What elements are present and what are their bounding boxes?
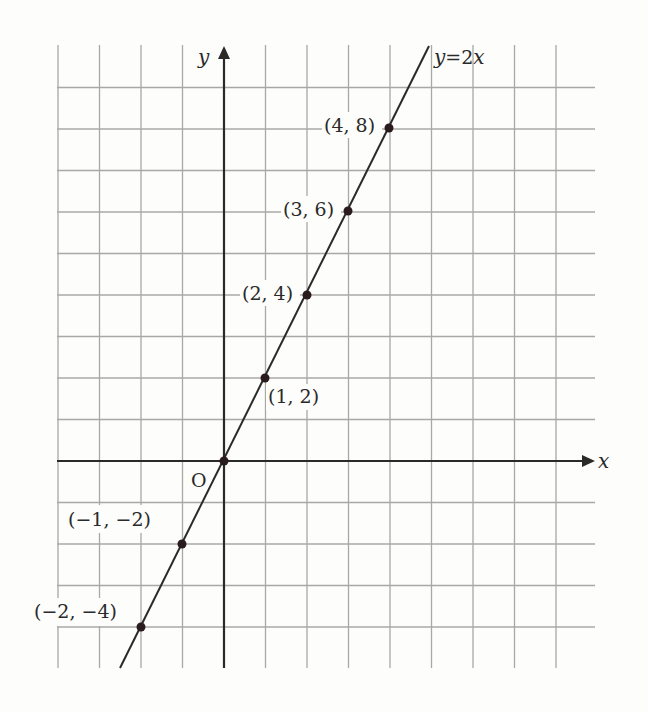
point-origin [220, 457, 229, 466]
point-label-3-6: (3, 6) [283, 198, 334, 220]
x-axis-arrow-icon [582, 455, 595, 467]
origin-label: O [191, 469, 207, 491]
point-label-neg1-neg2: (−1, −2) [68, 508, 151, 530]
label-backgrounds [32, 112, 382, 626]
point-label-neg2-neg4: (−2, −4) [34, 600, 117, 622]
y-axis-label: y [197, 45, 210, 69]
point-3-6 [344, 207, 353, 216]
coordinate-plane: x y O y=2x (4, 8) (3, 6) (2, 4) (1, 2) (… [0, 0, 648, 712]
line-y-equals-2x [120, 46, 429, 668]
point-label-4-8: (4, 8) [324, 114, 375, 136]
point-4-8 [385, 124, 394, 133]
y-axis-arrow-icon [218, 46, 230, 59]
x-axis-label: x [598, 449, 609, 473]
grid [57, 45, 595, 668]
point-1-2 [261, 374, 270, 383]
point-neg2-neg4 [137, 623, 146, 632]
point-label-2-4: (2, 4) [242, 282, 293, 304]
line-equation-label: y=2x [433, 45, 485, 69]
x-axis: x [57, 449, 609, 473]
point-neg1-neg2 [178, 540, 187, 549]
y-axis: y [197, 45, 230, 668]
point-label-1-2: (1, 2) [268, 385, 319, 407]
point-2-4 [303, 291, 312, 300]
